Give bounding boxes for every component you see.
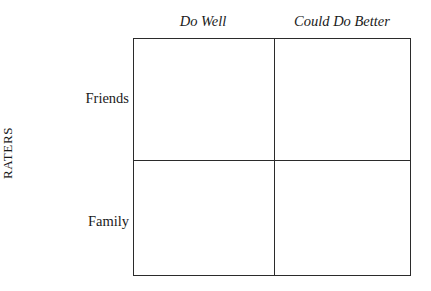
cell-friends-could-do-better[interactable]	[275, 39, 411, 160]
raters-axis-label: RATERS	[0, 110, 16, 196]
row-label-family: Family	[9, 211, 129, 231]
cell-friends-do-well[interactable]	[134, 39, 274, 160]
row-label-friends: Friends	[9, 88, 129, 108]
cell-family-could-do-better[interactable]	[275, 161, 411, 276]
horizontal-divider-line	[134, 160, 410, 161]
raters-axis-label-text: RATERS	[0, 127, 16, 179]
column-header-do-well: Do Well	[133, 11, 273, 31]
matrix-grid	[133, 38, 411, 276]
cell-family-do-well[interactable]	[134, 161, 274, 276]
vertical-divider-line	[274, 39, 275, 275]
column-header-could-do-better: Could Do Better	[273, 11, 411, 31]
